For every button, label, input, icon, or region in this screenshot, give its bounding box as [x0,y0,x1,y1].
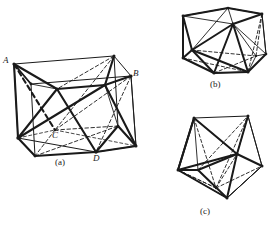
cube-bottom-hidden-edges [18,130,136,146]
figure-b-rotated-polyhedron [176,2,272,94]
figure-a-cube-tetrahedron: A B C D [8,52,148,172]
figure-c-svg [164,108,268,226]
caption-b: (b) [210,80,221,89]
vertex-dots-c [177,115,264,200]
figure-c-pentagonal-polyhedron [164,108,268,226]
figure-b-svg [176,2,272,94]
vertex-label-C: C [52,131,58,140]
cube-bottom-face [18,138,136,152]
figure-a-svg [8,52,148,172]
figure-page: A B C D [0,0,274,228]
vertex-label-B: B [133,69,139,78]
polyhedron-c-thick-edges [178,116,262,198]
caption-a: (a) [55,158,65,167]
vertex-label-A: A [3,56,9,65]
caption-c: (c) [200,207,210,216]
vertex-label-D: D [93,154,100,163]
